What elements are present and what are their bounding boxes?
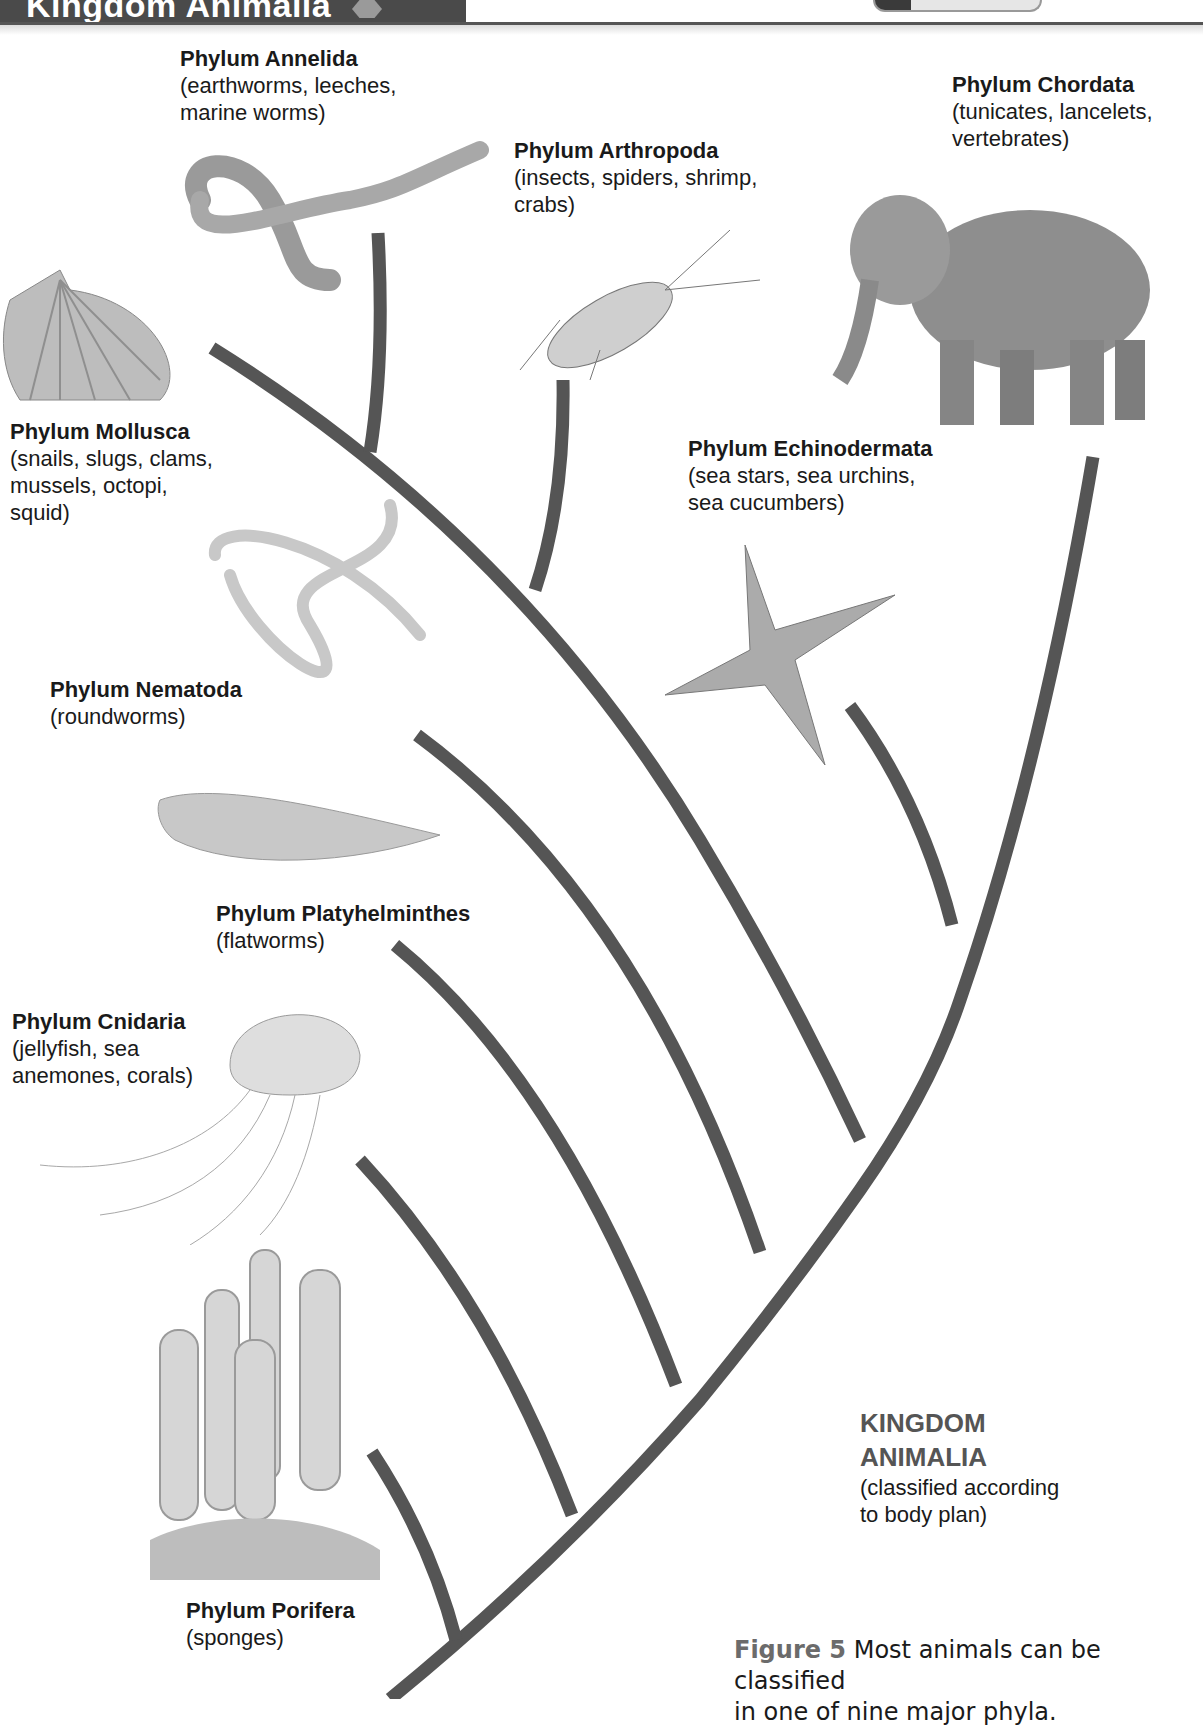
label-mollusca: Phylum Mollusca (snails, slugs, clams, m… [10, 418, 213, 526]
kingdom-description: (classified according to body plan) [860, 1474, 1059, 1528]
elephant-icon [830, 180, 1160, 430]
phylum-title: Phylum Chordata [952, 71, 1153, 98]
branch-arthropoda [535, 380, 563, 590]
phylum-description: (insects, spiders, shrimp, crabs) [514, 164, 757, 218]
label-platyhelminthes: Phylum Platyhelminthes (flatworms) [216, 900, 470, 954]
phylum-title: Phylum Cnidaria [12, 1008, 193, 1035]
label-annelida: Phylum Annelida (earthworms, leeches, ma… [180, 45, 396, 126]
sponge-icon [150, 1240, 380, 1580]
branch-porifera [372, 1452, 456, 1640]
phylum-description: (flatworms) [216, 927, 470, 954]
cockroach-icon [500, 230, 770, 390]
phylum-title: Phylum Echinodermata [688, 435, 933, 462]
phylum-title: Phylum Arthropoda [514, 137, 757, 164]
phylum-description: (sea stars, sea urchins, sea cucumbers) [688, 462, 933, 516]
flatworm-icon [155, 780, 445, 870]
branch-cnidaria [360, 1160, 572, 1515]
figure-caption: Figure 5 Most animals can be classified … [734, 1635, 1203, 1728]
scallop-shell-icon [0, 260, 190, 410]
phylum-title: Phylum Platyhelminthes [216, 900, 470, 927]
label-arthropoda: Phylum Arthropoda (insects, spiders, shr… [514, 137, 757, 218]
phylum-title: Phylum Mollusca [10, 418, 213, 445]
phylum-description: (snails, slugs, clams, mussels, octopi, … [10, 445, 213, 526]
label-chordata: Phylum Chordata (tunicates, lancelets, v… [952, 71, 1153, 152]
kingdom-label: KINGDOM ANIMALIA (classified according t… [860, 1406, 1059, 1528]
phylum-title: Phylum Porifera [186, 1597, 355, 1624]
earthworm-icon [160, 140, 500, 320]
branch-platyhelminthes [395, 945, 676, 1385]
label-echinodermata: Phylum Echinodermata (sea stars, sea urc… [688, 435, 933, 516]
figure-number: Figure 5 [734, 1636, 846, 1664]
phylum-description: (earthworms, leeches, marine worms) [180, 72, 396, 126]
phylum-description: (sponges) [186, 1624, 355, 1651]
phylum-title: Phylum Annelida [180, 45, 396, 72]
phylum-description: (jellyfish, sea anemones, corals) [12, 1035, 193, 1089]
label-cnidaria: Phylum Cnidaria (jellyfish, sea anemones… [12, 1008, 193, 1089]
sea-star-icon [665, 535, 905, 775]
branch-nematoda [417, 735, 760, 1252]
phylum-description: (tunicates, lancelets, vertebrates) [952, 98, 1153, 152]
kingdom-title: KINGDOM ANIMALIA [860, 1406, 1059, 1474]
phylum-description: (roundworms) [50, 703, 242, 730]
label-porifera: Phylum Porifera (sponges) [186, 1597, 355, 1651]
phylum-title: Phylum Nematoda [50, 676, 242, 703]
label-nematoda: Phylum Nematoda (roundworms) [50, 676, 242, 730]
